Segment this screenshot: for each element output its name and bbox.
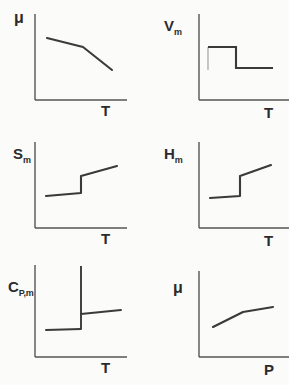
ylabel-mu: μ (173, 280, 183, 299)
xlabel-P: P (264, 362, 274, 377)
ylabel-Vm: Vm (164, 18, 182, 37)
xlabel-T: T (264, 105, 273, 120)
curve-mu-vs-T (47, 38, 112, 70)
curve-Vm-vs-T (208, 47, 273, 68)
panel-Vm-vs-T: Vm T (145, 0, 289, 128)
xlabel-T: T (101, 360, 110, 375)
curve-Sm-vs-T (46, 166, 117, 196)
figure-root: μ T Vm T Sm (0, 0, 289, 385)
panel-Hm-vs-T: Hm T (145, 128, 289, 256)
ylabel-Hm: Hm (164, 146, 183, 165)
ylabel-mu: μ (14, 10, 24, 29)
curve-mu-vs-P (213, 307, 273, 327)
axes (35, 14, 127, 100)
axes (199, 142, 289, 228)
curve-Hm-vs-T (210, 165, 271, 198)
xlabel-T: T (101, 231, 110, 246)
plot-CPm-vs-T (0, 257, 144, 385)
axes (199, 271, 289, 357)
panel-CPm-vs-T: CP,m T (0, 257, 144, 385)
curve-CPm-lower-branch (46, 329, 81, 330)
curve-CPm-upper-branch (81, 310, 121, 314)
panel-mu-vs-T: μ T (0, 0, 144, 128)
xlabel-T: T (101, 103, 110, 118)
xlabel-T: T (264, 233, 273, 248)
panel-Sm-vs-T: Sm T (0, 128, 144, 256)
axes (199, 14, 289, 100)
ylabel-CPm: CP,m (8, 279, 34, 298)
panel-mu-vs-P: μ P (145, 257, 289, 385)
ylabel-Sm: Sm (13, 146, 31, 165)
